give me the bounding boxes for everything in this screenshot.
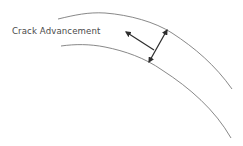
crack-advancement-label: Crack Advancement (12, 26, 100, 36)
crack-diagram (0, 0, 243, 146)
crack-width-double-arrow (149, 30, 167, 62)
crack-advancement-arrow (126, 32, 154, 50)
upper-crack-boundary (58, 13, 232, 89)
